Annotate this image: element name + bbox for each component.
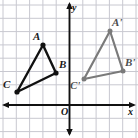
vertex-label-b: B [59, 59, 66, 70]
vertex-label-a-prime: A' [112, 17, 122, 28]
y-axis-arrow-down [66, 129, 72, 136]
vertex-a-dot [40, 42, 45, 47]
vertex-a-prime-dot [108, 29, 113, 34]
vertex-label-a: A [33, 31, 40, 42]
vertex-label-c-prime: C' [70, 80, 80, 91]
vertex-label-c: C [3, 79, 10, 90]
coordinate-plane-figure: A B C A' B' C' x y O [0, 0, 138, 138]
x-axis-label: x [128, 107, 133, 117]
vertex-b-dot [53, 70, 58, 75]
vertex-b-prime-dot [121, 69, 126, 74]
triangle-abc [14, 42, 58, 94]
vertex-label-b-prime: B' [125, 57, 135, 68]
origin-label: O [61, 107, 68, 117]
vertex-c-dot [14, 89, 19, 94]
y-axis-label: y [72, 3, 76, 13]
triangle-a-prime-b-prime-c-prime [82, 29, 126, 82]
vertex-c-prime-dot [82, 77, 87, 82]
